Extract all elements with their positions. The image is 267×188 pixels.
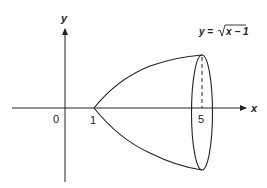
upper-curve bbox=[94, 55, 202, 108]
tick-label-5: 5 bbox=[198, 113, 204, 125]
solid-of-revolution-diagram: y x 0 1 5 y = x − 1 bbox=[0, 0, 267, 188]
lower-curve bbox=[94, 108, 202, 170]
equation-label: y = x − 1 bbox=[198, 25, 249, 37]
tick-label-1: 1 bbox=[90, 114, 96, 126]
y-axis-label: y bbox=[60, 12, 68, 24]
x-axis-label: x bbox=[250, 102, 258, 114]
svg-text:y =: y = bbox=[198, 26, 213, 37]
svg-text:x − 1: x − 1 bbox=[225, 26, 249, 37]
origin-label: 0 bbox=[53, 113, 59, 125]
